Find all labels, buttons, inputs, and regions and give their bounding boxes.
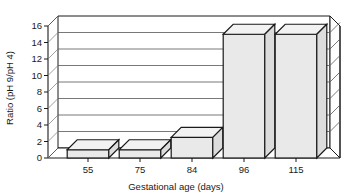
y-tick-label: 8 [37,86,42,97]
chart-canvas: Ratio (pH 9/pH 4) 0246810121416 55758496… [0,0,351,195]
y-tick-label: 2 [37,136,42,147]
bar-96 [223,24,275,158]
y-tick-label: 14 [31,37,42,48]
bar-115 [275,24,327,158]
depth-tick [48,49,58,59]
y-tick-label: 10 [31,70,42,81]
bar-chart-3d: Ratio (pH 9/pH 4) 0246810121416 55758496… [0,0,351,195]
depth-tick [48,115,58,125]
y-tick-label: 0 [37,152,42,163]
bar-84 [171,127,223,158]
bar-75 [119,140,171,158]
x-tick-label-84: 84 [187,164,198,175]
bar-front-face [275,34,317,158]
bar-front-face [223,34,265,158]
y-axis-ticks: 0246810121416 [31,16,58,163]
depth-tick [48,99,58,109]
y-tick-label: 4 [37,119,42,130]
x-axis-ticks: 55758496115 [83,158,304,175]
depth-tick [48,82,58,92]
right-side-wall [330,16,340,158]
x-tick-label-96: 96 [239,164,250,175]
bar-side-face [265,24,275,158]
y-tick-label: 16 [31,20,42,31]
bar-side-face [317,24,327,158]
bar-front-face [67,150,109,158]
y-tick-label: 6 [37,103,42,114]
y-axis-title: Ratio (pH 9/pH 4) [4,51,15,125]
depth-tick [48,66,58,76]
x-tick-label-75: 75 [135,164,146,175]
x-axis-title: Gestational age (days) [128,181,224,192]
y-tick-label: 12 [31,53,42,64]
bar-55 [67,140,119,158]
depth-tick [48,16,58,26]
bar-front-face [119,150,161,158]
bar-front-face [171,137,213,158]
x-tick-label-55: 55 [83,164,94,175]
depth-tick [48,33,58,43]
x-tick-label-115: 115 [288,164,303,175]
depth-tick [48,132,58,142]
